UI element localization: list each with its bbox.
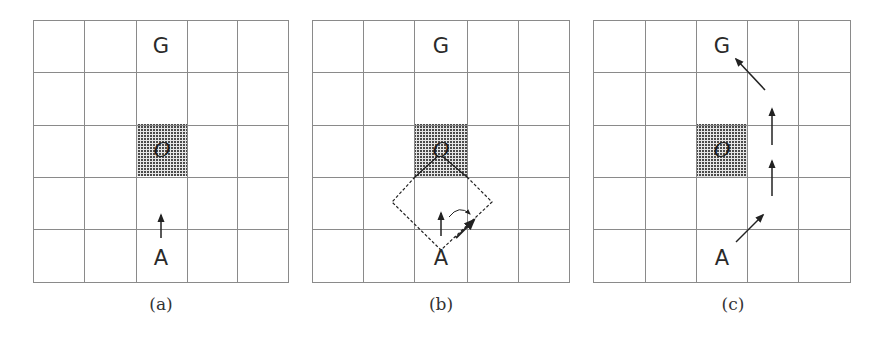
goal-label: G [714,36,730,57]
three-panel-grid-figure: G O A (a) [0,0,878,339]
panel-c: G O A (c) [0,0,878,339]
agent-label: A [715,248,729,269]
path-arrow-4-to-goal [736,59,765,90]
path-arrow-1-diagonal [736,215,763,242]
caption-c: (c) [722,296,745,313]
grid-c [0,0,878,300]
obstacle-label: O [713,140,730,161]
